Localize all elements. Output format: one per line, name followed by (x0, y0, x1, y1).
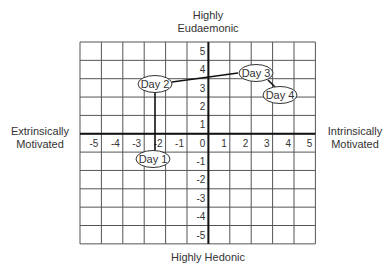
y-tick-label: -5 (196, 230, 205, 241)
point-label: Day 3 (242, 67, 271, 79)
quadrant-chart: -5-4-3-2-101234554321-1-2-3-4-5Day 1Day … (0, 0, 392, 268)
x-tick-label: 4 (285, 138, 291, 149)
x-tick-label: -5 (89, 138, 98, 149)
point-label: Day 4 (266, 89, 295, 101)
y-tick-label: 5 (200, 46, 206, 57)
x-tick-label: 0 (200, 138, 206, 149)
x-tick-label: 5 (307, 138, 313, 149)
y-tick-label: -4 (196, 211, 205, 222)
x-tick-label: 1 (221, 138, 227, 149)
y-tick-label: 3 (200, 83, 206, 94)
y-tick-label: 1 (200, 119, 206, 130)
y-tick-label: -2 (196, 174, 205, 185)
x-tick-label: 2 (243, 138, 249, 149)
y-tick-label: 4 (200, 64, 206, 75)
x-tick-label: -4 (111, 138, 120, 149)
y-tick-label: 2 (200, 101, 206, 112)
point-label: Day 2 (141, 78, 170, 90)
point-label: Day 1 (139, 153, 168, 165)
x-tick-label: 3 (264, 138, 270, 149)
x-tick-label: -3 (132, 138, 141, 149)
x-tick-label: -1 (175, 138, 184, 149)
y-tick-label: -1 (196, 156, 205, 167)
y-tick-label: -3 (196, 193, 205, 204)
